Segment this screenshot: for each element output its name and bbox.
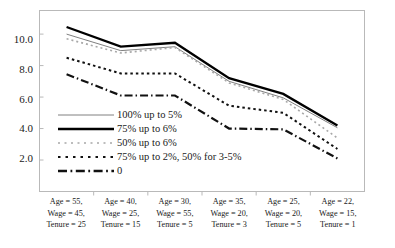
x-axis-category-line: Wage = 15,: [311, 208, 365, 220]
chart-legend: 100% up to 5% 75% up to 6% 50% up to 6% …: [56, 108, 306, 178]
chart-container: 10.0 8.0 6.0 4.0 2.0 100% up to 5% 75% u…: [0, 0, 395, 248]
x-axis-category-label: Age = 30, Wage = 55, Tenure = 5: [148, 196, 202, 246]
x-axis-category-label: Age = 55, Wage = 45, Tenure = 25: [39, 196, 93, 246]
x-axis-category-line: Tenure = 1: [311, 219, 365, 231]
x-axis-category-line: Wage = 20,: [256, 208, 310, 220]
x-axis-category-label: Age = 22, Wage = 15, Tenure = 1: [311, 196, 365, 246]
x-axis-category-line: Tenure = 25: [39, 219, 93, 231]
legend-swatch-thick-solid: [56, 123, 116, 135]
x-axis-category-label: Age = 25, Wage = 20, Tenure = 5: [256, 196, 310, 246]
legend-label: 50% up to 6%: [116, 137, 177, 149]
legend-item: 0: [56, 164, 306, 178]
x-axis-category-line: Age = 22,: [311, 196, 365, 208]
x-axis-ticks: [94, 192, 311, 196]
legend-label: 75% up to 2%, 50% for 3-5%: [116, 151, 242, 163]
x-axis-category-line: Age = 25,: [256, 196, 310, 208]
x-axis-category-line: Age = 35,: [202, 196, 256, 208]
legend-swatch-dash-dot: [56, 165, 116, 177]
x-axis-category-label: Age = 35, Wage = 20, Tenure = 3: [202, 196, 256, 246]
x-axis-category-line: Wage = 20,: [202, 208, 256, 220]
legend-item: 50% up to 6%: [56, 136, 306, 150]
legend-swatch-bold-dotted: [56, 151, 116, 163]
legend-item: 75% up to 6%: [56, 122, 306, 136]
x-axis-category-line: Age = 55,: [39, 196, 93, 208]
x-axis-category-line: Age = 30,: [148, 196, 202, 208]
x-axis-category-line: Tenure = 5: [256, 219, 310, 231]
x-axis-category-line: Wage = 45,: [39, 208, 93, 220]
x-axis-category-line: Age = 40,: [93, 196, 147, 208]
x-axis-category-labels: Age = 55, Wage = 45, Tenure = 25 Age = 4…: [39, 196, 365, 246]
legend-item: 100% up to 5%: [56, 108, 306, 122]
x-axis-category-line: Tenure = 15: [93, 219, 147, 231]
legend-label: 75% up to 6%: [116, 123, 177, 135]
x-axis-category-line: Tenure = 5: [148, 219, 202, 231]
legend-swatch-thin-solid: [56, 109, 116, 121]
x-axis-category-line: Tenure = 3: [202, 219, 256, 231]
legend-label: 100% up to 5%: [116, 109, 182, 121]
x-axis-category-line: Wage = 25,: [93, 208, 147, 220]
x-axis-category-label: Age = 40, Wage = 25, Tenure = 15: [93, 196, 147, 246]
legend-label: 0: [116, 165, 122, 177]
legend-swatch-light-dotted: [56, 137, 116, 149]
legend-item: 75% up to 2%, 50% for 3-5%: [56, 150, 306, 164]
x-axis-category-line: Wage = 55,: [148, 208, 202, 220]
